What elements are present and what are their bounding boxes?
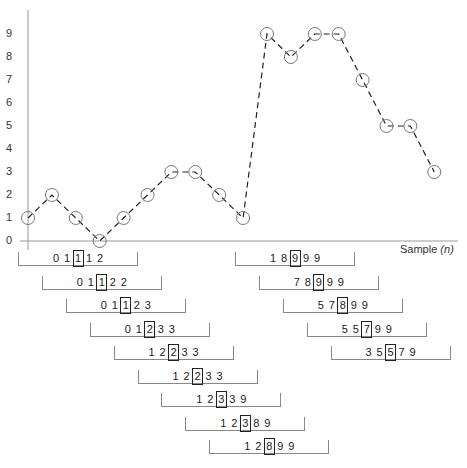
sorted-window-values: 12339 (162, 393, 280, 408)
window-value: 1 (194, 393, 205, 406)
window-value: 5 (374, 346, 385, 359)
window-bracket: 35579 (331, 346, 451, 360)
data-point-marker (284, 51, 297, 64)
window-value: 9 (324, 276, 335, 289)
median-value: 9 (290, 250, 301, 267)
sorted-window-values: 01123 (67, 299, 185, 314)
median-value: 8 (337, 297, 348, 314)
sorted-window-values: 12899 (210, 440, 328, 455)
window-value: 2 (205, 393, 216, 406)
sorted-window-values: 78999 (260, 276, 378, 291)
window-bracket: 12233 (114, 346, 234, 360)
signal-line (28, 34, 434, 241)
window-value: 9 (348, 299, 359, 312)
window-bracket: 12233 (138, 370, 258, 384)
window-value: 1 (109, 299, 120, 312)
window-bracket: 01123 (66, 299, 186, 313)
data-point-marker (356, 74, 369, 87)
window-bracket: 12339 (161, 393, 281, 407)
window-value: 9 (335, 276, 346, 289)
median-value: 2 (192, 368, 203, 385)
window-bracket: 78999 (259, 276, 379, 290)
window-value: 8 (302, 276, 313, 289)
x-axis-label-text: Sample (400, 243, 437, 255)
window-value: 9 (407, 346, 418, 359)
window-value: 3 (155, 323, 166, 336)
window-value: 9 (301, 252, 312, 265)
y-tick-label: 3 (6, 165, 18, 177)
window-value: 9 (383, 323, 394, 336)
y-tick-label: 7 (6, 73, 18, 85)
window-value: 3 (214, 370, 225, 383)
window-value: 3 (166, 323, 177, 336)
median-value: 1 (96, 274, 107, 291)
median-value: 8 (264, 438, 275, 455)
window-bracket: 01233 (90, 323, 210, 337)
sorted-window-values: 55799 (308, 323, 426, 338)
sorted-window-values: 01122 (43, 276, 161, 291)
window-value: 1 (85, 276, 96, 289)
window-value: 2 (118, 276, 129, 289)
window-bracket: 55799 (307, 323, 427, 337)
window-value: 3 (179, 346, 190, 359)
median-value: 3 (216, 391, 227, 408)
window-value: 5 (339, 323, 350, 336)
window-value: 5 (315, 299, 326, 312)
y-tick-label: 1 (6, 211, 18, 223)
window-bracket: 12899 (209, 440, 329, 454)
window-value: 3 (203, 370, 214, 383)
window-value: 2 (95, 252, 106, 265)
sorted-window-values: 12233 (115, 346, 233, 361)
window-bracket: 01112 (18, 252, 138, 266)
sorted-window-values: 01112 (19, 252, 137, 267)
window-value: 9 (286, 440, 297, 453)
window-value: 2 (131, 299, 142, 312)
window-value: 1 (84, 252, 95, 265)
median-value: 3 (240, 415, 251, 432)
y-tick-label: 4 (6, 142, 18, 154)
window-value: 1 (242, 440, 253, 453)
y-tick-label: 5 (6, 119, 18, 131)
x-axis-label: Sample (n) (400, 243, 454, 255)
sorted-window-values: 12233 (139, 370, 257, 385)
window-value: 9 (238, 393, 249, 406)
sorted-window-values: 01233 (91, 323, 209, 338)
sorted-window-values: 35579 (332, 346, 450, 361)
window-value: 0 (74, 276, 85, 289)
window-value: 0 (122, 323, 133, 336)
window-value: 5 (350, 323, 361, 336)
window-value: 2 (229, 417, 240, 430)
median-value: 2 (144, 321, 155, 338)
window-bracket: 18999 (235, 252, 355, 266)
sorted-window-values: 12389 (186, 417, 304, 432)
sorted-window-values: 57899 (284, 299, 402, 314)
signal-markers (22, 28, 441, 248)
window-value: 7 (396, 346, 407, 359)
window-value: 1 (218, 417, 229, 430)
window-value: 1 (170, 370, 181, 383)
window-value: 3 (190, 346, 201, 359)
window-value: 0 (98, 299, 109, 312)
y-tick-label: 6 (6, 96, 18, 108)
median-value: 2 (168, 344, 179, 361)
sorted-window-values: 18999 (236, 252, 354, 267)
window-value: 9 (372, 323, 383, 336)
window-value: 3 (227, 393, 238, 406)
window-value: 1 (62, 252, 73, 265)
window-value: 2 (253, 440, 264, 453)
window-value: 2 (107, 276, 118, 289)
window-value: 9 (312, 252, 323, 265)
data-point-marker (213, 189, 226, 202)
window-value: 2 (181, 370, 192, 383)
window-bracket: 01122 (42, 276, 162, 290)
y-tick-label: 8 (6, 50, 18, 62)
window-value: 8 (251, 417, 262, 430)
window-value: 7 (291, 276, 302, 289)
window-value: 1 (146, 346, 157, 359)
window-value: 3 (363, 346, 374, 359)
median-value: 1 (120, 297, 131, 314)
y-tick-label: 0 (6, 234, 18, 246)
window-value: 0 (51, 252, 62, 265)
x-axis-label-var: (n) (440, 243, 453, 255)
median-value: 7 (361, 321, 372, 338)
